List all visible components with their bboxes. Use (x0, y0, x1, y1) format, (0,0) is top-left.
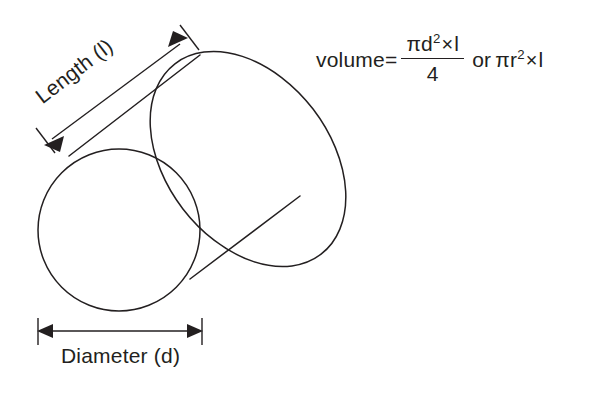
formula-length-var: l (454, 32, 459, 55)
formula-alt-times-symbol: × (525, 49, 539, 71)
formula-connector: or (472, 48, 491, 72)
formula-numerator: πd2×l (401, 32, 464, 58)
formula-lead: volume= (316, 48, 397, 73)
formula-pi-r: πr (495, 48, 517, 71)
formula-d-exponent: 2 (433, 31, 441, 46)
formula-alt-length-var: l (539, 48, 544, 71)
formula-pi-d: πd (406, 32, 433, 55)
cylinder-front-face (38, 149, 200, 311)
formula-denominator: 4 (422, 59, 444, 86)
cylinder-body-lines (69, 55, 300, 279)
formula-r-exponent: 2 (517, 47, 525, 62)
diagram-canvas: Length (l) Diameter (d) volume= πd2×l 4 … (0, 0, 590, 398)
formula-alternate: πr2×l (495, 48, 543, 72)
diameter-dimension-arrow (37, 318, 203, 345)
volume-formula: volume= πd2×l 4 or πr2×l (316, 33, 543, 87)
formula-times-symbol: × (441, 33, 455, 55)
formula-fraction: πd2×l 4 (401, 32, 464, 86)
diameter-label: Diameter (d) (61, 345, 180, 366)
